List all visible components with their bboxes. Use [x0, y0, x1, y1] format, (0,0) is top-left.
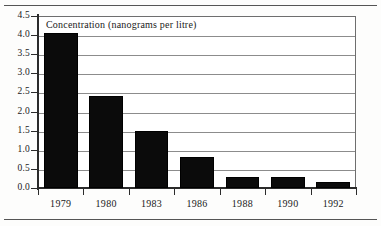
y-axis-tick-mark — [31, 131, 38, 132]
bar-1988 — [226, 177, 260, 188]
bar-1990 — [271, 177, 305, 188]
gridline — [39, 93, 355, 94]
y-axis-tick-labels: 0.00.51.01.52.02.53.03.54.04.5 — [0, 0, 30, 226]
x-axis-tick-mark — [265, 189, 266, 195]
x-axis-tick-label: 1983 — [129, 198, 175, 209]
bar-1980 — [89, 96, 123, 188]
y-axis-tick-mark — [31, 169, 38, 170]
x-axis-tick-label: 1988 — [219, 198, 265, 209]
y-axis-tick-label: 1.5 — [4, 126, 30, 136]
x-axis-tick-mark — [174, 189, 175, 195]
y-axis-tick-mark — [31, 92, 38, 93]
y-axis-tick-mark — [31, 188, 38, 189]
gridline — [39, 151, 355, 152]
bar-1986 — [180, 157, 214, 188]
y-axis-tick-label: 2.5 — [4, 87, 30, 97]
x-axis-tick-mark — [83, 189, 84, 195]
bar-1983 — [135, 131, 169, 188]
x-axis-tick-label: 1979 — [38, 198, 84, 209]
x-axis-tick-label: 1992 — [310, 198, 356, 209]
bottom-divider-rule — [4, 219, 377, 220]
x-axis-tick-label: 1986 — [174, 198, 220, 209]
y-axis-tick-mark — [31, 16, 38, 17]
x-axis-tick-label: 1990 — [265, 198, 311, 209]
x-axis-tick-mark — [356, 189, 357, 195]
y-axis-tick-mark — [31, 35, 38, 36]
y-axis-tick-mark — [31, 150, 38, 151]
y-axis-tick-label: 4.5 — [4, 11, 30, 21]
x-axis-tick-mark — [311, 189, 312, 195]
x-axis-tick-mark — [220, 189, 221, 195]
top-divider-rule — [4, 5, 377, 6]
y-axis-tick-mark — [31, 54, 38, 55]
y-axis-tick-label: 3.0 — [4, 68, 30, 78]
bar-1992 — [316, 182, 350, 188]
figure: 0.00.51.01.52.02.53.03.54.04.5 Concentra… — [0, 0, 381, 226]
y-axis-tick-label: 3.5 — [4, 49, 30, 59]
y-axis-tick-label: 0.0 — [4, 183, 30, 193]
x-axis-tick-label: 1980 — [83, 198, 129, 209]
gridline — [39, 55, 355, 56]
bar-1979 — [44, 33, 78, 188]
y-axis-tick-mark — [31, 112, 38, 113]
y-axis-tick-label: 0.5 — [4, 164, 30, 174]
gridline — [39, 113, 355, 114]
y-axis-tick-label: 1.0 — [4, 145, 30, 155]
chart-title: Concentration (nanograms per litre) — [46, 19, 197, 31]
y-axis-tick-mark — [31, 73, 38, 74]
gridline — [39, 74, 355, 75]
gridline — [39, 36, 355, 37]
x-axis-tick-mark — [38, 189, 39, 195]
y-axis-tick-label: 4.0 — [4, 30, 30, 40]
y-axis-tick-label: 2.0 — [4, 107, 30, 117]
x-axis-tick-mark — [129, 189, 130, 195]
gridline — [39, 132, 355, 133]
y-axis-line — [37, 14, 39, 190]
